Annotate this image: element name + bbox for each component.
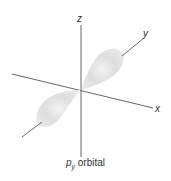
y-axis-positive [122,38,144,56]
x-axis [12,74,153,108]
orbital-caption: py orbital [0,157,171,170]
orbital-lobe-positive [81,49,124,90]
orbital-lobe-negative [36,90,81,127]
x-axis-label: x [154,103,161,114]
y-axis-label: y [142,28,149,39]
y-axis-negative [22,122,42,137]
orbital-diagram: z y x [0,0,171,181]
z-axis-label: z [76,13,82,24]
caption-suffix: orbital [75,157,105,168]
